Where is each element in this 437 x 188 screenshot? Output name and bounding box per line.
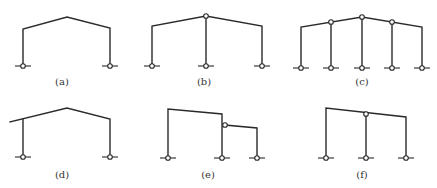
frame-panel-e <box>160 109 265 160</box>
frame-diagram: (a)(b)(c)(d)(e)(f) <box>0 0 437 188</box>
pinned-support-icon <box>21 64 26 69</box>
pinned-support-icon <box>420 66 425 71</box>
pinned-support-icon <box>21 155 26 160</box>
panel-label-a: (a) <box>55 76 69 87</box>
panel-label-c: (c) <box>355 76 368 87</box>
hinge-joint-icon <box>360 15 365 20</box>
frame-panel-a <box>15 17 118 68</box>
pinned-support-icon <box>108 155 113 160</box>
frame-member <box>225 125 257 158</box>
hinge-joint-icon <box>390 20 395 25</box>
panel-label-e: (e) <box>201 169 215 180</box>
panel-label-d: (d) <box>55 169 69 180</box>
frame-member <box>168 109 222 158</box>
pinned-support-icon <box>390 66 395 71</box>
frame-member <box>10 108 110 157</box>
pinned-support-icon <box>404 156 409 161</box>
frame-panel-f <box>318 108 414 160</box>
pinned-support-icon <box>255 156 260 161</box>
pinned-support-icon <box>260 64 265 69</box>
pinned-support-icon <box>108 64 113 69</box>
hinge-joint-icon <box>223 123 228 128</box>
pinned-support-icon <box>299 66 304 71</box>
panel-label-b: (b) <box>197 76 211 87</box>
pinned-support-icon <box>324 156 329 161</box>
pinned-support-icon <box>150 64 155 69</box>
hinge-joint-icon <box>329 20 334 25</box>
frame-panel-b <box>144 14 270 69</box>
frame-member <box>152 16 262 66</box>
frame-member <box>23 17 110 66</box>
frame-diagram-canvas <box>0 0 437 188</box>
pinned-support-icon <box>364 156 369 161</box>
hinge-joint-icon <box>364 112 369 117</box>
pinned-support-icon <box>360 66 365 71</box>
pinned-support-icon <box>166 156 171 161</box>
hinge-joint-icon <box>204 14 209 19</box>
pinned-support-icon <box>204 64 209 69</box>
frame-panel-d <box>10 108 118 159</box>
pinned-support-icon <box>329 66 334 71</box>
pinned-support-icon <box>220 156 225 161</box>
panel-label-f: (f) <box>356 169 368 180</box>
frame-panel-c <box>293 15 430 71</box>
